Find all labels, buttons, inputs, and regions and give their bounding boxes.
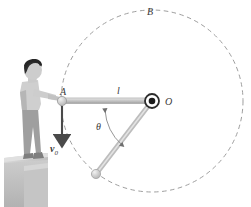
ball-at-a bbox=[57, 96, 66, 105]
slanted-rod bbox=[96, 101, 152, 174]
diagram-canvas: A B O l θ v0 bbox=[0, 0, 251, 207]
label-angle-theta: θ bbox=[96, 121, 101, 132]
label-velocity-subscript: 0 bbox=[54, 149, 58, 157]
physics-diagram-figure: A B O l θ v0 bbox=[0, 0, 251, 207]
label-rod-length: l bbox=[117, 85, 120, 96]
horizontal-rod bbox=[62, 98, 152, 103]
pivot-o bbox=[145, 94, 159, 108]
label-point-a: A bbox=[59, 86, 67, 97]
label-point-o: O bbox=[165, 96, 172, 107]
label-point-b: B bbox=[147, 6, 153, 17]
platform-ledge bbox=[4, 153, 48, 207]
ball-lower bbox=[91, 169, 100, 178]
label-velocity: v0 bbox=[50, 143, 58, 157]
